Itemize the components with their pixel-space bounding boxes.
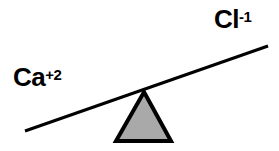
calcium-ion-symbol: Ca xyxy=(13,62,45,92)
calcium-ion-charge: +2 xyxy=(45,66,61,83)
calcium-ion-label: Ca+2 xyxy=(13,64,61,90)
diagram-canvas: Ca+2 Cl-1 xyxy=(0,0,279,151)
triangle-fulcrum xyxy=(116,92,171,141)
chloride-ion-symbol: Cl xyxy=(214,4,239,34)
chloride-ion-charge: -1 xyxy=(239,8,251,25)
chloride-ion-label: Cl-1 xyxy=(214,6,251,32)
